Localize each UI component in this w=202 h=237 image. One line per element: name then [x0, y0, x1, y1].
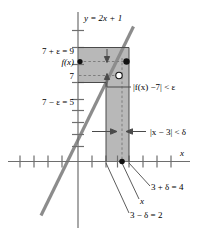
function-equation-label: y = 2x + 1	[83, 13, 122, 23]
x-label-lower-delta: 3 − δ = 2	[130, 210, 162, 220]
epsilon-condition-label: |f(x) −7| < ε	[133, 82, 175, 92]
graph-canvas: 7 + ε = 9 f(x) 7 7 − ε = 5 y = 2x + 1 |f…	[0, 0, 202, 237]
axes	[8, 12, 190, 228]
delta-condition-label: |x − 3| < δ	[150, 127, 186, 137]
shaded-delta-strip	[106, 48, 129, 162]
y-label-fx: f(x)	[62, 57, 75, 67]
filled-point-fx-axis	[77, 59, 82, 64]
filled-point-on-line	[123, 58, 129, 64]
open-circle-removable-point	[116, 72, 122, 78]
x-label-upper-delta: 3 + δ = 4	[151, 182, 184, 192]
filled-point-x-axis	[119, 159, 125, 165]
y-label-upper-epsilon: 7 + ε = 9	[42, 46, 74, 56]
y-label-lower-epsilon: 7 − ε = 5	[42, 97, 74, 107]
x-axis-label: x	[179, 148, 184, 158]
x-label-x: x	[139, 196, 144, 206]
epsilon-delta-limit-figure: 7 + ε = 9 f(x) 7 7 − ε = 5 y = 2x + 1 |f…	[0, 0, 202, 237]
y-label-limit: 7	[70, 71, 75, 81]
